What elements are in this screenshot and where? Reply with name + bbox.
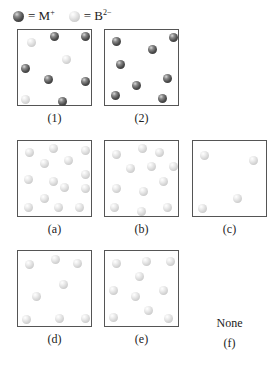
panel-label-1: (1) [17, 111, 92, 126]
light-sphere-icon [233, 194, 242, 203]
light-sphere-icon [81, 314, 90, 323]
light-sphere-icon [137, 207, 146, 216]
light-sphere-icon [64, 156, 73, 165]
light-sphere-icon [166, 257, 175, 266]
light-sphere-icon [131, 292, 140, 301]
legend-item-cation: = M+ [13, 8, 55, 24]
light-sphere-icon [159, 286, 168, 295]
light-sphere-icon [109, 313, 118, 322]
light-sphere-icon [142, 257, 151, 266]
dark-sphere-icon [44, 75, 53, 84]
dark-sphere-icon [50, 32, 59, 41]
light-sphere-icon [51, 255, 60, 264]
light-sphere-icon [159, 177, 168, 186]
light-sphere-icon [169, 162, 178, 171]
light-sphere-icon [73, 259, 82, 268]
panel-label-b: (b) [104, 222, 179, 237]
dark-sphere-icon [112, 37, 121, 46]
light-sphere-icon [60, 183, 69, 192]
legend-label-anion: = B2− [84, 8, 112, 24]
panel-e [104, 250, 179, 327]
light-sphere-icon [112, 150, 121, 159]
panel-d [17, 250, 92, 327]
panel-b [104, 140, 179, 217]
light-sphere-icon [198, 204, 207, 213]
light-sphere-icon [32, 292, 41, 301]
dark-sphere-icon [132, 81, 141, 90]
dark-sphere-icon [169, 33, 178, 42]
light-sphere-icon [112, 184, 121, 193]
panel-label-e: (e) [104, 332, 179, 347]
light-sphere-icon [135, 272, 144, 281]
light-sphere-icon [40, 159, 49, 168]
light-sphere-icon [147, 162, 156, 171]
light-sphere-icon [126, 164, 135, 173]
light-sphere-icon [109, 286, 118, 295]
legend: = M+ = B2− [13, 8, 125, 24]
dark-sphere-icon [81, 77, 90, 86]
dark-sphere-icon [58, 97, 67, 106]
dark-sphere-icon [158, 94, 167, 103]
light-sphere-icon [25, 148, 34, 157]
light-sphere-icon [69, 11, 80, 22]
dark-sphere-icon [13, 11, 24, 22]
light-sphere-icon [25, 260, 34, 269]
light-sphere-icon [81, 170, 90, 179]
dark-sphere-icon [111, 91, 120, 100]
light-sphere-icon [81, 184, 90, 193]
light-sphere-icon [27, 38, 36, 47]
light-sphere-icon [138, 144, 147, 153]
light-sphere-icon [49, 144, 58, 153]
panel-label-a: (a) [17, 222, 92, 237]
light-sphere-icon [200, 151, 209, 160]
light-sphere-icon [110, 203, 119, 212]
option-f-text: None [192, 316, 267, 331]
dark-sphere-icon [21, 64, 30, 73]
light-sphere-icon [24, 203, 33, 212]
light-sphere-icon [59, 280, 68, 289]
dark-sphere-icon [116, 60, 125, 69]
light-sphere-icon [40, 194, 49, 203]
light-sphere-icon [144, 306, 153, 315]
legend-item-anion: = B2− [69, 8, 112, 24]
light-sphere-icon [139, 187, 148, 196]
panel-a [17, 140, 92, 217]
legend-label-cation: = M+ [28, 8, 55, 24]
light-sphere-icon [21, 95, 30, 104]
light-sphere-icon [164, 314, 173, 323]
light-sphere-icon [112, 259, 121, 268]
light-sphere-icon [81, 146, 90, 155]
light-sphere-icon [24, 175, 33, 184]
panel-c [192, 140, 267, 217]
light-sphere-icon [155, 148, 164, 157]
panel-2 [104, 29, 179, 106]
panel-label-c: (c) [192, 222, 267, 237]
dark-sphere-icon [148, 45, 157, 54]
option-f-label: (f) [192, 336, 267, 351]
light-sphere-icon [49, 177, 58, 186]
panel-1 [17, 29, 92, 106]
panel-label-d: (d) [17, 332, 92, 347]
light-sphere-icon [62, 55, 71, 64]
dark-sphere-icon [81, 32, 90, 41]
dark-sphere-icon [163, 74, 172, 83]
light-sphere-icon [22, 315, 31, 324]
light-sphere-icon [55, 314, 64, 323]
light-sphere-icon [249, 156, 258, 165]
light-sphere-icon [163, 203, 172, 212]
panel-label-2: (2) [104, 111, 179, 126]
light-sphere-icon [75, 203, 84, 212]
light-sphere-icon [54, 203, 63, 212]
